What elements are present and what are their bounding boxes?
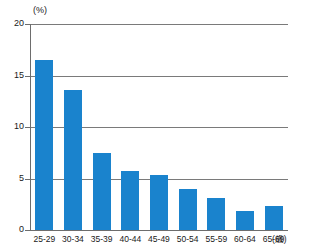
x-tick-label: 60-64 [231,234,260,244]
y-tick-label: 10 [2,122,24,131]
bar [93,153,111,230]
y-tick-label: 20 [2,19,24,28]
bar [207,198,225,230]
x-tick-label: 40-44 [116,234,145,244]
x-tick-label: 30-34 [59,234,88,244]
plot-area [30,24,288,230]
x-tick-label: 35-39 [87,234,116,244]
bar [179,189,197,230]
y-axis-unit-label: (%) [33,5,47,16]
bar [35,60,53,230]
gridline [30,24,288,25]
x-tick-label: 55-59 [202,234,231,244]
bar [265,206,283,230]
x-tick-label: 50-54 [173,234,202,244]
x-tick-label: 45-49 [145,234,174,244]
x-axis-unit-label: (歳) [272,234,287,244]
y-tick-label: 0 [2,225,24,234]
x-axis-line [30,230,288,231]
y-axis-line [30,24,31,231]
bar-chart: (%) 05101520 25-2930-3435-3940-4445-4950… [0,0,315,251]
bar [236,211,254,230]
bar [64,90,82,230]
x-tick-label: 25-29 [30,234,59,244]
y-tick-label: 5 [2,174,24,183]
bar [150,175,168,230]
gridline [30,76,288,77]
y-tick-label: 15 [2,71,24,80]
bar [121,171,139,230]
